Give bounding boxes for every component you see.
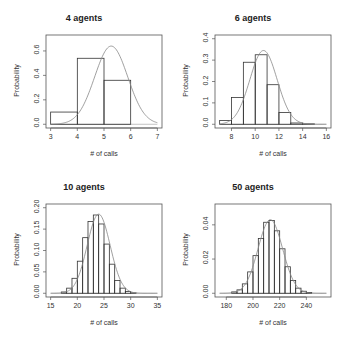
x-tick-label: 6 [121, 133, 141, 140]
y-tick-label: 0.6 [33, 39, 40, 59]
normal-curve [220, 51, 327, 125]
y-tick-label: 0.0 [202, 113, 209, 133]
chart-panel-6-agents: 6 agents8101214160.00.10.20.30.4# of cal… [169, 0, 337, 169]
y-axis-label: Probability [13, 219, 20, 279]
x-axis-label: # of calls [189, 150, 337, 157]
x-axis-label: # of calls [189, 319, 337, 326]
chart-plot-area [0, 0, 168, 169]
y-tick-label: 0.2 [33, 88, 40, 108]
histogram-bar [104, 244, 109, 293]
histogram-bar [290, 280, 295, 293]
x-tick-label: 5 [94, 133, 114, 140]
chart-title: 50 agents [169, 182, 337, 192]
x-tick-label: 30 [121, 302, 141, 309]
chart-title: 4 agents [0, 13, 168, 23]
x-tick-label: 180 [216, 302, 236, 309]
histogram-bar [77, 58, 104, 124]
histogram-bar [109, 264, 114, 293]
y-tick-label: 0.10 [33, 239, 40, 259]
x-axis-label: # of calls [20, 319, 188, 326]
x-tick-label: 3 [41, 133, 61, 140]
x-tick-label: 4 [67, 133, 87, 140]
x-tick-label: 8 [221, 133, 241, 140]
y-tick-label: 0.0 [33, 113, 40, 133]
y-tick-label: 0.15 [33, 218, 40, 238]
histogram-bar [120, 288, 125, 293]
histogram-bar [267, 85, 279, 125]
chart-panel-10-agents: 10 agents15202530350.000.050.100.150.20#… [0, 169, 168, 338]
x-tick-label: 10 [245, 133, 265, 140]
y-tick-label: 0.00 [202, 282, 209, 302]
x-tick-label: 20 [67, 302, 87, 309]
histogram-bar [296, 288, 301, 293]
y-tick-label: 0.4 [33, 64, 40, 84]
chart-panel-4-agents: 4 agents345670.00.20.40.6# of callsProba… [0, 0, 168, 169]
normal-curve [220, 220, 327, 294]
chart-title: 6 agents [169, 13, 337, 23]
y-tick-label: 0.1 [202, 91, 209, 111]
x-axis-label: # of calls [20, 150, 188, 157]
x-tick-label: 15 [41, 302, 61, 309]
histogram-bar [99, 224, 104, 293]
histogram-bar [104, 80, 131, 124]
histogram-bar [231, 98, 243, 125]
chart-plot-area [0, 169, 168, 338]
chart-title: 10 agents [0, 182, 168, 192]
y-axis-label: Probability [13, 50, 20, 110]
x-tick-label: 16 [316, 133, 336, 140]
histogram-bar [264, 222, 269, 293]
histogram-bar [258, 239, 263, 294]
histogram-bar [125, 292, 130, 294]
x-tick-label: 200 [243, 302, 263, 309]
histogram-bar [269, 221, 274, 294]
histogram-bar [248, 272, 253, 293]
y-axis-label: Probability [182, 219, 189, 279]
x-tick-label: 25 [94, 302, 114, 309]
histogram-bar [274, 231, 279, 293]
chart-panel-50-agents: 50 agents1802002202400.000.020.04# of ca… [169, 169, 337, 338]
histogram-bar [291, 123, 303, 124]
histogram-bar [243, 62, 255, 124]
histogram-bar [279, 113, 291, 125]
y-tick-label: 0.02 [202, 248, 209, 268]
plot-frame [215, 204, 331, 297]
y-tick-label: 0.00 [33, 282, 40, 302]
y-tick-label: 0.05 [33, 260, 40, 280]
plot-frame [215, 35, 331, 128]
y-tick-label: 0.20 [33, 196, 40, 216]
x-tick-label: 14 [293, 133, 313, 140]
x-tick-label: 35 [147, 302, 167, 309]
histogram-bar [253, 256, 258, 294]
histogram-bar [93, 215, 98, 293]
y-axis-label: Probability [182, 50, 189, 110]
histogram-bar [242, 284, 247, 293]
x-tick-label: 7 [147, 133, 167, 140]
y-tick-label: 0.2 [202, 70, 209, 90]
histogram-bar [255, 55, 267, 125]
y-tick-label: 0.4 [202, 27, 209, 47]
x-tick-label: 240 [296, 302, 316, 309]
chart-plot-area [169, 0, 337, 169]
y-tick-label: 0.3 [202, 49, 209, 69]
histogram-bar [115, 280, 120, 293]
x-tick-label: 220 [270, 302, 290, 309]
x-tick-label: 12 [269, 133, 289, 140]
chart-plot-area [169, 169, 337, 338]
y-tick-label: 0.04 [202, 213, 209, 233]
